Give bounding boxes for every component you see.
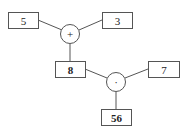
edge-7-to-mul	[125, 69, 148, 78]
node-input-3: 3	[102, 12, 133, 29]
edge-5-to-plus	[38, 20, 62, 30]
edge-8-to-mul	[85, 69, 107, 78]
node-output-56: 56	[101, 109, 132, 126]
node-input-5: 5	[8, 12, 39, 29]
node-intermediate-8: 8	[55, 61, 86, 78]
operator-plus: +	[60, 24, 80, 44]
edge-3-to-plus	[79, 20, 102, 30]
operator-multiply: ·	[106, 72, 126, 92]
node-input-7: 7	[148, 61, 180, 78]
